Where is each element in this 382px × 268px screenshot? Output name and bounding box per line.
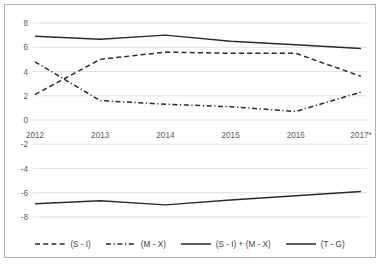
- y-axis-tick-label: 6: [23, 43, 28, 52]
- x-axis-tick-label: 2016: [287, 131, 306, 140]
- legend-item[interactable]: (S - I) + (M - X): [181, 239, 271, 249]
- series-line-0: [35, 52, 361, 94]
- series-line-2: [35, 35, 361, 48]
- plot-area: 86420-2-4-6-8 201220132014201520162017*: [5, 5, 375, 257]
- legend-item[interactable]: (M - X): [106, 239, 166, 249]
- y-axis-tick-label: -8: [21, 213, 29, 222]
- y-axis-tick-label: -6: [21, 189, 29, 198]
- line-chart-canvas: 86420-2-4-6-8 201220132014201520162017*: [5, 5, 375, 257]
- y-axis-tick-label: 8: [23, 19, 28, 28]
- series-line-3: [35, 192, 361, 205]
- legend-item[interactable]: (T - G): [286, 239, 345, 249]
- y-axis-tick-label: 4: [23, 68, 28, 77]
- series-line-1: [35, 62, 361, 112]
- x-axis-tick-label: 2015: [221, 131, 240, 140]
- legend-item[interactable]: (S - I): [35, 239, 90, 249]
- y-axis-tick-labels: 86420-2-4-6-8: [21, 19, 29, 222]
- legend-item-label: (S - I): [70, 240, 90, 249]
- legend-line-swatch-solid: [181, 239, 211, 249]
- x-axis-tick-labels: 201220132014201520162017*: [26, 131, 373, 140]
- x-axis-tick-label: 2017*: [350, 131, 372, 140]
- x-axis-tick-label: 2012: [26, 131, 45, 140]
- y-axis-tick-label: -4: [21, 165, 29, 174]
- legend-item-label: (M - X): [141, 240, 166, 249]
- y-axis-tick-label: 2: [23, 92, 28, 101]
- chart-legend: (S - I)(M - X)(S - I) + (M - X)(T - G): [5, 239, 375, 249]
- y-axis-tick-label: -2: [21, 140, 29, 149]
- y-axis-tick-label: 0: [23, 116, 28, 125]
- legend-line-swatch-dashdot: [106, 239, 136, 249]
- x-axis-tick-label: 2014: [156, 131, 175, 140]
- legend-item-label: (S - I) + (M - X): [216, 240, 271, 249]
- x-axis-tick-label: 2013: [91, 131, 110, 140]
- chart-frame: 86420-2-4-6-8 201220132014201520162017* …: [4, 4, 376, 258]
- legend-line-swatch-solid: [286, 239, 316, 249]
- legend-item-label: (T - G): [321, 240, 345, 249]
- legend-line-swatch-dashed: [35, 239, 65, 249]
